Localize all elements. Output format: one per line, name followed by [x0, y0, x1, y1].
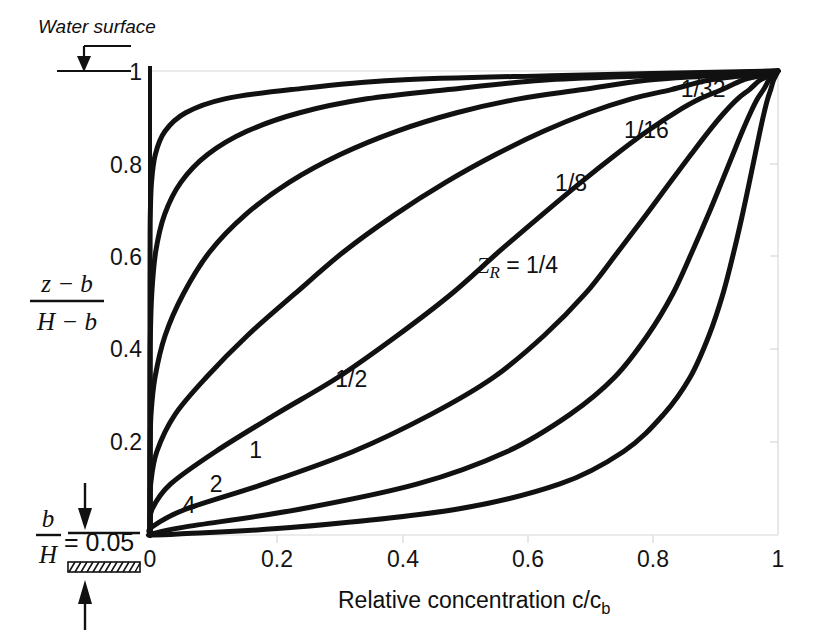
curve-1-over-2 — [150, 71, 778, 535]
right-frame-ticks — [770, 164, 778, 442]
curve-label-1-over-8: 1/8 — [555, 170, 587, 196]
y-tick-0.6: 0.6 — [110, 244, 142, 270]
x-axis-title-main: Relative concentration c/c — [338, 587, 601, 613]
curve-4 — [150, 71, 778, 535]
y-axis-title-numerator: z − b — [40, 270, 93, 297]
curve-1-over-16 — [148, 71, 778, 535]
curve-label-2: 2 — [210, 471, 223, 497]
curve-1-over-8 — [149, 71, 778, 535]
x-axis-title-sub: b — [601, 599, 610, 618]
curve-2 — [150, 71, 778, 535]
curve-1-over-4 — [150, 71, 778, 535]
bed-ratio-denominator: H — [38, 541, 59, 568]
curve-label-1-over-32: 1/32 — [681, 76, 726, 102]
curve-label-group: 1/321/161/8ZR = 1/41/2124 — [183, 76, 726, 518]
bed-up-arrow-icon — [78, 580, 92, 604]
curve-label-1-over-4: ZR = 1/4 — [477, 252, 559, 282]
x-tick-0.6: 0.6 — [512, 546, 544, 572]
bed-down-arrow-icon — [78, 508, 92, 530]
x-axis-title: Relative concentration c/cb — [338, 587, 611, 618]
y-axis-title-denominator: H − b — [36, 308, 97, 335]
rouse-concentration-profile-chart: 1 0.8 0.6 0.4 0.2 0 0.2 0.4 0.6 0.8 1 Re… — [0, 0, 819, 640]
water-surface-arrow-icon — [77, 56, 91, 72]
bed-ratio-numerator: b — [42, 505, 55, 532]
curve-label-1-over-2: 1/2 — [335, 366, 367, 392]
curve-group — [148, 71, 778, 535]
curve-1-over-32 — [150, 71, 778, 535]
figure-page: 1 0.8 0.6 0.4 0.2 0 0.2 0.4 0.6 0.8 1 Re… — [0, 0, 819, 640]
bottom-frame-ticks — [277, 535, 653, 543]
x-tick-0.2: 0.2 — [261, 546, 293, 572]
x-tick-0: 0 — [144, 546, 157, 572]
curve-label-1: 1 — [249, 437, 262, 463]
curve-label-4: 4 — [183, 492, 196, 518]
plot-frame — [150, 71, 778, 535]
x-tick-0.4: 0.4 — [387, 546, 419, 572]
y-tick-0.2: 0.2 — [110, 429, 142, 455]
x-tick-0.8: 0.8 — [637, 546, 669, 572]
curve-label-1-over-16: 1/16 — [624, 117, 669, 143]
y-tick-0.8: 0.8 — [110, 152, 142, 178]
curve-1 — [150, 71, 778, 535]
y-tick-1: 1 — [129, 59, 142, 85]
bed-ratio-annotation: b H = 0.05 — [36, 483, 140, 630]
y-axis-title: z − b H − b — [30, 270, 104, 335]
y-tick-0.4: 0.4 — [110, 336, 142, 362]
x-tick-1: 1 — [772, 546, 785, 572]
water-surface-label: Water surface — [38, 16, 156, 37]
